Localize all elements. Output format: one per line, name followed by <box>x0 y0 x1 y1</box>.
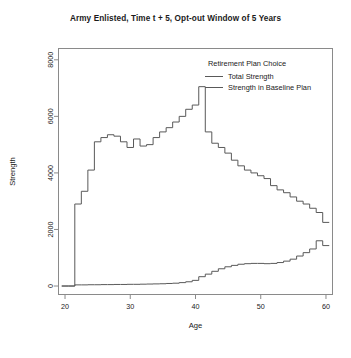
x-axis-tick-label: 50 <box>257 302 265 311</box>
legend-title: Retirement Plan Choice <box>208 59 286 68</box>
y-axis-tick-label: 4000 <box>46 165 55 181</box>
x-axis-tick-label: 40 <box>192 302 200 311</box>
y-axis-tick-label: 0 <box>46 284 55 288</box>
legend-label-baseline-plan: Strength in Baseline Plan <box>228 83 311 92</box>
y-axis-tick-label: 2000 <box>46 221 55 237</box>
series-line-total-strength <box>62 87 329 286</box>
plot-canvas: 020004000600080002030405060AgeStrengthRe… <box>0 0 351 358</box>
chart-figure: Army Enlisted, Time t + 5, Opt-out Windo… <box>0 0 351 358</box>
y-axis-tick-label: 6000 <box>46 108 55 124</box>
x-axis-title: Age <box>189 321 203 330</box>
series-line-baseline-plan <box>62 241 329 286</box>
y-axis-tick-label: 8000 <box>46 52 55 68</box>
x-axis-tick-label: 60 <box>322 302 330 311</box>
x-axis-tick-label: 30 <box>126 302 134 311</box>
x-axis-tick-label: 20 <box>61 302 69 311</box>
y-axis-title: Strength <box>8 157 17 186</box>
legend-label-total-strength: Total Strength <box>228 72 274 81</box>
